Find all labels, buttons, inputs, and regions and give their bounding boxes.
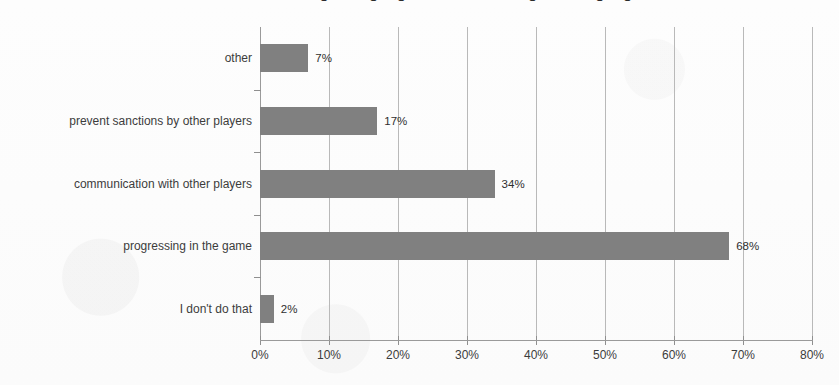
bar-value-label: 17% [384, 107, 407, 135]
bar-value-label: 34% [502, 170, 525, 198]
bar-value-label: 68% [736, 232, 759, 260]
x-axis-tick-label: 70% [713, 348, 773, 362]
y-axis-category-label: I don't do that [10, 295, 260, 323]
x-axis-tick-label: 60% [644, 348, 704, 362]
y-tick-mark [254, 277, 261, 278]
y-tick-mark [254, 215, 261, 216]
x-axis-tick-label: 40% [506, 348, 566, 362]
x-axis-tick-label: 10% [299, 348, 359, 362]
bar [260, 295, 274, 323]
gridline-80 [812, 27, 813, 340]
y-axis-category-label: communication with other players [10, 170, 260, 198]
bar-chart: reasons for using a language other than … [0, 0, 839, 385]
bar [260, 107, 377, 135]
x-axis-tick-label: 20% [368, 348, 428, 362]
bar [260, 170, 495, 198]
bar-value-label: 2% [281, 295, 298, 323]
bar [260, 232, 729, 260]
gridline-50 [605, 27, 606, 340]
bar-value-label: 7% [315, 44, 332, 72]
y-axis-category-label: prevent sanctions by other players [10, 107, 260, 135]
y-tick-mark [254, 152, 261, 153]
y-axis-category-label: other [10, 44, 260, 72]
gridline-70 [743, 27, 744, 340]
x-axis-tick-label: 50% [575, 348, 635, 362]
bar [260, 44, 308, 72]
y-tick-mark [254, 90, 261, 91]
x-axis-tick-label: 80% [782, 348, 839, 362]
gridline-60 [674, 27, 675, 340]
gridline-40 [536, 27, 537, 340]
x-axis-line [260, 340, 813, 341]
y-axis-category-label: progressing in the game [10, 232, 260, 260]
x-axis-tick-label: 30% [437, 348, 497, 362]
y-axis-labels: otherprevent sanctions by other playersc… [0, 27, 260, 340]
chart-title: reasons for using a language other than … [0, 0, 839, 1]
x-axis-tick-label: 0% [230, 348, 290, 362]
